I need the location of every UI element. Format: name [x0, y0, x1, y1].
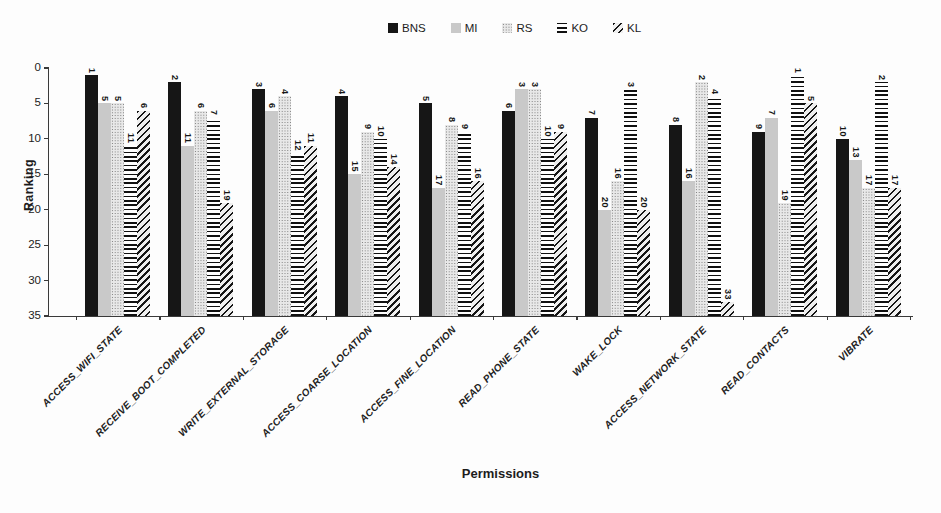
- legend-label-mi: MI: [465, 22, 478, 34]
- y-tick-label: 15: [1, 167, 41, 179]
- x-tick: [493, 316, 494, 320]
- bar-value-label: 8: [447, 117, 456, 123]
- y-tick: [44, 174, 49, 175]
- y-tick-label: 0: [1, 61, 41, 73]
- x-tick: [660, 316, 661, 320]
- bar-bns: [419, 103, 432, 316]
- bar-mi: [265, 111, 278, 316]
- y-tick: [44, 315, 49, 316]
- bar-ko: [291, 153, 304, 316]
- bar-value-label: 17: [890, 175, 899, 186]
- y-tick-label: 10: [1, 132, 41, 144]
- legend-label-rs: RS: [516, 22, 532, 34]
- x-tick: [576, 316, 577, 320]
- bar-mi: [682, 181, 695, 316]
- bar-value-label: 11: [183, 133, 192, 144]
- x-category-label: READ_PHONE_STATE: [456, 324, 541, 409]
- bar-ko: [374, 139, 387, 316]
- x-tick: [243, 316, 244, 320]
- bar-kl: [137, 111, 150, 316]
- x-category-label: VIBRATE: [836, 324, 875, 363]
- y-tick-label: 35: [1, 309, 41, 321]
- bar-mi: [515, 89, 528, 316]
- x-tick: [827, 316, 828, 320]
- bar-mi: [348, 174, 361, 316]
- x-category-label: WAKE_LOCK: [570, 324, 624, 378]
- bar-value-label: 7: [767, 110, 776, 116]
- plot-area: 0510152025303515511621167193641211415910…: [48, 68, 913, 317]
- bar-value-label: 8: [671, 117, 680, 123]
- legend-swatch-mi-icon: [451, 23, 461, 33]
- bar-value-label: 13: [851, 147, 860, 158]
- bar-value-label: 14: [389, 154, 398, 165]
- legend-swatch-bns-icon: [388, 23, 398, 33]
- bar-value-label: 10: [543, 126, 552, 137]
- bar-value-label: 6: [267, 103, 276, 109]
- bar-mi: [432, 188, 445, 316]
- bar-kl: [220, 203, 233, 316]
- bar-value-label: 16: [473, 168, 482, 179]
- bar-value-label: 6: [196, 103, 205, 109]
- x-tick: [326, 316, 327, 320]
- legend-swatch-kl-icon: [613, 23, 623, 33]
- bar-value-label: 3: [517, 82, 526, 88]
- y-tick: [44, 138, 49, 139]
- bar-value-label: 10: [376, 126, 385, 137]
- y-tick: [44, 103, 49, 104]
- bar-ko: [875, 82, 888, 316]
- legend-item-rs: RS: [502, 22, 532, 34]
- bar-value-label: 11: [126, 133, 135, 144]
- legend-label-kl: KL: [627, 22, 641, 34]
- x-tick: [743, 316, 744, 320]
- bar-value-label: 11: [306, 133, 315, 144]
- legend-label-ko: KO: [571, 22, 588, 34]
- legend-swatch-ko-icon: [557, 23, 567, 33]
- bar-value-label: 3: [530, 82, 539, 88]
- y-tick: [44, 209, 49, 210]
- legend-swatch-rs-icon: [502, 23, 512, 33]
- bar-value-label: 20: [639, 197, 648, 208]
- y-tick: [44, 280, 49, 281]
- bar-value-label: 4: [337, 89, 346, 95]
- legend-label-bns: BNS: [402, 22, 426, 34]
- bar-value-label: 9: [460, 124, 469, 130]
- bar-value-label: 20: [600, 197, 609, 208]
- bar-value-label: 5: [421, 96, 430, 102]
- bar-rs: [528, 89, 541, 316]
- x-axis-title: Permissions: [60, 466, 941, 481]
- bar-mi: [181, 146, 194, 316]
- x-tick: [410, 316, 411, 320]
- bar-value-label: 6: [504, 103, 513, 109]
- bar-ko: [124, 146, 137, 316]
- y-tick: [44, 67, 49, 68]
- legend: BNS MI RS KO KL: [388, 22, 641, 34]
- bar-value-label: 16: [684, 168, 693, 179]
- x-tick: [910, 316, 911, 320]
- bar-value-label: 7: [587, 110, 596, 116]
- bar-value-label: 16: [613, 168, 622, 179]
- bar-value-label: 1: [87, 68, 96, 74]
- bar-value-label: 9: [556, 124, 565, 130]
- bar-ko: [207, 118, 220, 316]
- bar-bns: [669, 125, 682, 316]
- bar-value-label: 5: [806, 96, 815, 102]
- bar-value-label: 7: [209, 110, 218, 116]
- bar-kl: [471, 181, 484, 316]
- legend-item-mi: MI: [451, 22, 478, 34]
- legend-item-ko: KO: [557, 22, 588, 34]
- x-category-label: ACCESS_NETWORK_STATE: [601, 324, 708, 431]
- y-tick: [44, 245, 49, 246]
- bar-bns: [836, 139, 849, 316]
- y-tick-label: 5: [1, 96, 41, 108]
- y-tick-label: 25: [1, 238, 41, 250]
- bar-value-label: 19: [222, 190, 231, 201]
- bar-value-label: 19: [780, 190, 789, 201]
- bar-ko: [708, 96, 721, 316]
- x-category-label: ACCESS_FINE_LOCATION: [357, 324, 457, 424]
- bar-value-label: 6: [139, 103, 148, 109]
- bar-kl: [637, 210, 650, 316]
- bar-value-label: 2: [170, 75, 179, 81]
- bar-value-label: 2: [697, 75, 706, 81]
- bar-mi: [849, 160, 862, 316]
- x-category-label: ACCESS_WIFI_STATE: [40, 324, 125, 409]
